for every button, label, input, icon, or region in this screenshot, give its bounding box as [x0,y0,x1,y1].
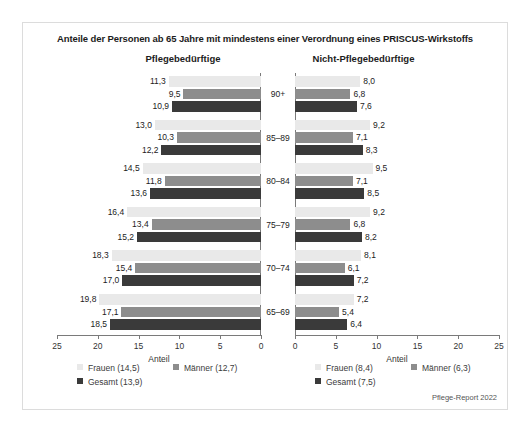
legend-left: Frauen (14,5)Männer (12,7)Gesamt (13,9) [67,363,267,391]
bar-gesamt [110,319,261,330]
bar-group: 18,315,417,0 [57,247,261,291]
axis-baseline-right [295,335,499,336]
legend-swatch-icon [315,364,321,370]
legend-swatch-icon [77,364,83,370]
age-group-label: 70–74 [261,247,295,291]
age-group-label: 75–79 [261,204,295,248]
bar-value-label: 19,8 [80,294,97,305]
bar-maenner [177,132,261,143]
axis-tick-label: 10 [364,341,390,351]
bar-group: 19,817,118,5 [57,291,261,335]
age-group-label: 90+ [261,73,295,117]
legend-right: Frauen (8,4)Männer (6,3)Gesamt (7,5) [305,363,505,391]
bar-value-label: 7,2 [357,275,369,286]
bar-value-label: 15,4 [116,263,133,274]
bar-group: 9,57,18,5 [295,160,499,204]
legend-item-frauen: Frauen (14,5) [77,363,140,373]
bar-value-label: 11,3 [150,76,166,87]
bar-value-label: 16,4 [108,207,125,218]
axis-tick [417,335,418,339]
age-group-labels: 90+85–8980–8475–7970–7465–69 [261,73,295,335]
axis-tick [458,335,459,339]
bar-maenner [295,176,353,187]
bar-value-label: 13,0 [135,120,152,131]
bar-gesamt [150,188,261,199]
plot-area-left: Anteil 2520151050 11,39,510,913,010,312,… [57,73,261,335]
plot-area-right: Anteil 0510152025 8,06,87,69,27,18,39,57… [295,73,499,335]
bar-value-label: 10,9 [153,101,170,112]
bar-maenner [295,132,353,143]
chart-frame: Anteile der Personen ab 65 Jahre mit min… [22,22,508,410]
legend-label: Männer (6,3) [422,363,471,373]
bar-value-label: 18,5 [91,319,108,330]
bar-frauen [295,76,360,87]
axis-tick-label: 0 [282,341,308,351]
bar-group: 13,010,312,2 [57,117,261,161]
bar-value-label: 17,1 [102,307,119,318]
bar-value-label: 9,5 [169,89,181,100]
axis-tick [57,335,58,339]
bar-value-label: 6,4 [350,319,362,330]
bar-frauen [295,207,370,218]
bar-maenner [121,307,261,318]
bar-frauen [143,163,261,174]
bar-frauen [295,250,361,261]
bar-value-label: 6,1 [348,263,360,274]
bar-frauen [295,163,373,174]
panel-heading-nicht-pflegebeduerftige: Nicht-Pflegebedürftige [281,53,446,64]
legend-item-maenner: Männer (12,7) [173,363,237,373]
legend-item-maenner: Männer (6,3) [411,363,471,373]
bar-group: 11,39,510,9 [57,73,261,117]
axis-baseline-left [57,335,261,336]
bar-maenner [295,219,350,230]
legend-swatch-icon [173,364,179,370]
chart-title: Anteile der Personen ab 65 Jahre mit min… [23,33,507,44]
bar-value-label: 8,3 [366,145,378,156]
bar-value-label: 7,2 [357,294,369,305]
bar-maenner [295,263,345,274]
legend-row: Gesamt (7,5) [305,377,505,391]
bar-frauen [169,76,261,87]
bar-frauen [155,120,261,131]
axis-tick [139,335,140,339]
age-group-label: 80–84 [261,160,295,204]
source-note: Pflege-Report 2022 [432,393,497,402]
bar-value-label: 10,3 [157,132,174,143]
bar-frauen [112,250,261,261]
bar-group: 14,511,813,6 [57,160,261,204]
legend-label: Gesamt (13,9) [88,377,142,387]
bar-value-label: 11,8 [146,176,162,187]
legend-swatch-icon [77,378,83,384]
bar-value-label: 13,6 [130,188,147,199]
legend-label: Männer (12,7) [184,363,237,373]
axis-tick [336,335,337,339]
bar-gesamt [295,232,362,243]
bar-gesamt [295,188,364,199]
axis-tick-label: 10 [166,341,192,351]
age-group-label: 65–69 [261,291,295,335]
bar-maenner [183,89,261,100]
bar-value-label: 8,0 [363,76,375,87]
bar-gesamt [295,145,363,156]
axis-tick [179,335,180,339]
axis-tick-label: 5 [207,341,233,351]
bar-value-label: 18,3 [92,250,109,261]
bar-maenner [135,263,261,274]
x-axis-left: Anteil 2520151050 [57,335,261,363]
bar-frauen [127,207,261,218]
bar-value-label: 15,2 [117,232,134,243]
bar-value-label: 12,2 [142,145,159,156]
bar-gesamt [137,232,261,243]
axis-tick [377,335,378,339]
bar-group: 16,413,415,2 [57,204,261,248]
bar-value-label: 6,8 [353,89,365,100]
axis-tick-label: 20 [445,341,471,351]
bar-value-label: 8,2 [365,232,377,243]
legend-item-gesamt: Gesamt (7,5) [315,377,376,387]
bar-value-label: 9,2 [373,207,385,218]
bar-group: 8,06,87,6 [295,73,499,117]
axis-tick-label: 25 [44,341,70,351]
bar-frauen [295,294,354,305]
bar-gesamt [172,101,261,112]
x-axis-right: Anteil 0510152025 [295,335,499,363]
